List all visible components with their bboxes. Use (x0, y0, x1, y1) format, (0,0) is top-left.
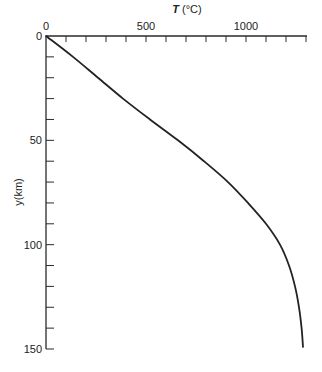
geotherm-curve (46, 36, 303, 347)
y-tick-label: 50 (30, 134, 42, 146)
y-axis-title-text: y(km) (12, 178, 24, 206)
x-axis-title: T (°C) (172, 3, 201, 15)
x-axis-title-text: T (°C) (172, 3, 201, 15)
x-tick-label: 0 (43, 20, 49, 32)
y-axis: 050100150 (24, 30, 54, 355)
y-tick-label: 0 (36, 30, 42, 42)
x-tick-label: 500 (137, 20, 155, 32)
x-tick-label: 1000 (234, 20, 258, 32)
x-axis-unit: (°C) (179, 3, 202, 15)
plot-area (46, 36, 303, 347)
y-tick-label: 100 (24, 239, 42, 251)
y-tick-label: 150 (24, 343, 42, 355)
x-axis: 05001000 (43, 20, 307, 42)
chart: T (°C) 05001000 050100150 y(km) (0, 0, 322, 372)
y-axis-title: y(km) (12, 178, 24, 206)
